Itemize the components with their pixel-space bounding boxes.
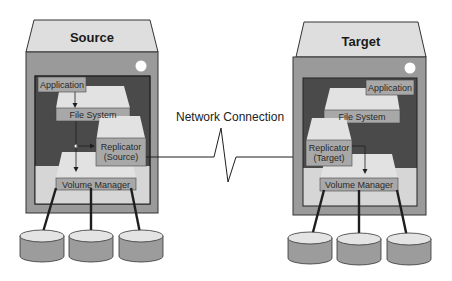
target-disk-1 bbox=[288, 232, 332, 264]
source-title: Source bbox=[26, 30, 158, 45]
target-application-label: Application bbox=[366, 83, 414, 93]
target-disk-3 bbox=[387, 233, 431, 265]
network-connection-label: Network Connection bbox=[176, 110, 276, 124]
source-disk-2 bbox=[69, 230, 113, 262]
source-power-led bbox=[136, 61, 147, 72]
source-replicator-label-line2: (Source) bbox=[96, 152, 146, 162]
target-replicator-label-line2: (Target) bbox=[306, 153, 352, 163]
source-file-system-label: File System bbox=[56, 110, 130, 120]
target-file-system-label: File System bbox=[324, 112, 400, 122]
target-replicator-label-line1: Replicator bbox=[306, 143, 352, 153]
target-disk-2 bbox=[337, 233, 381, 265]
source-volume-manager-label: Volume Manager bbox=[56, 180, 136, 190]
source-disk-3 bbox=[119, 230, 163, 262]
source-server bbox=[20, 20, 163, 262]
source-application-label: Application bbox=[38, 80, 86, 90]
target-power-led bbox=[405, 63, 416, 74]
network-connection-link bbox=[146, 128, 305, 182]
target-volume-manager-label: Volume Manager bbox=[320, 180, 398, 190]
target-title: Target bbox=[296, 34, 426, 49]
source-disk-1 bbox=[20, 230, 64, 262]
source-replicator-label-line1: Replicator bbox=[96, 142, 146, 152]
